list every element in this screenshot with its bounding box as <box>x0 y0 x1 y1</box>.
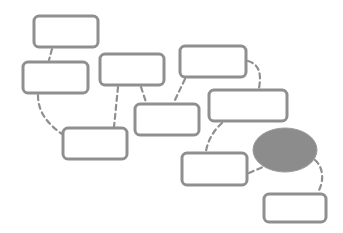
diagram-canvas <box>0 0 343 233</box>
edge-X-I <box>315 160 322 192</box>
edge-B-G <box>38 95 62 134</box>
node-box-b[interactable] <box>23 62 88 93</box>
node-box-h[interactable] <box>182 153 247 185</box>
edge-C-G <box>114 87 118 127</box>
node-box-e[interactable] <box>209 90 287 121</box>
node-box-a[interactable] <box>34 16 98 47</box>
edge-D-F <box>174 79 185 102</box>
node-box-g[interactable] <box>63 128 127 159</box>
highlighted-ellipse-node[interactable] <box>253 128 317 172</box>
node-box-i[interactable] <box>264 194 326 222</box>
edge-E-H <box>206 123 222 151</box>
node-box-d[interactable] <box>180 46 246 77</box>
edge-H-X <box>249 166 265 173</box>
edge-D-E <box>248 61 260 88</box>
node-box-c[interactable] <box>100 54 164 85</box>
node-box-f[interactable] <box>135 104 199 135</box>
edge-C-F <box>141 87 146 102</box>
nodes <box>23 16 326 222</box>
edge-A-B <box>49 49 52 60</box>
